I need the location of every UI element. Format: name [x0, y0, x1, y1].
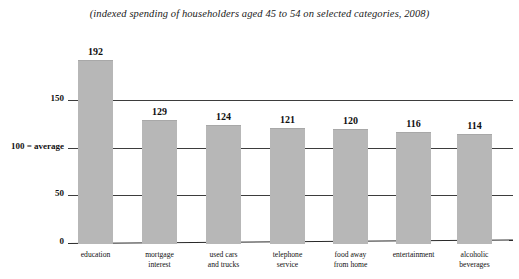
bar-value-label: 124	[194, 111, 253, 122]
x-axis-category-label: food away from home	[319, 250, 382, 270]
bar-value-label: 114	[445, 120, 504, 131]
y-axis-tick-50: 50	[42, 188, 64, 198]
bar-value-label: 116	[384, 118, 443, 129]
bar	[396, 132, 431, 244]
bar-chart: (indexed spending of householders aged 4…	[0, 0, 519, 279]
bar-value-label: 192	[66, 46, 125, 57]
x-axis-category-label: telephone service	[256, 250, 319, 270]
x-axis-category-label: mortgage interest	[128, 250, 191, 270]
x-axis-category-label: alcoholic beverages	[443, 250, 506, 270]
bar	[333, 129, 368, 244]
x-axis-category-label: entertainment	[382, 250, 445, 260]
bar	[270, 128, 305, 244]
bar	[78, 60, 113, 244]
y-axis-tick-150: 150	[42, 93, 64, 103]
bar-value-label: 120	[321, 115, 380, 126]
x-axis-category-label: used cars and trucks	[192, 250, 255, 270]
bar	[206, 125, 241, 244]
bar	[457, 134, 492, 244]
bar	[142, 120, 177, 244]
y-axis-tick-0: 0	[42, 236, 64, 246]
bar-value-label: 129	[130, 106, 189, 117]
x-axis-category-label: education	[64, 250, 127, 260]
y-axis-tick-100: 100 = average	[0, 141, 64, 151]
gridline-150	[68, 100, 513, 101]
plot-area: 150 100 = average 50 0 192education129mo…	[0, 0, 519, 279]
bar-value-label: 121	[258, 114, 317, 125]
